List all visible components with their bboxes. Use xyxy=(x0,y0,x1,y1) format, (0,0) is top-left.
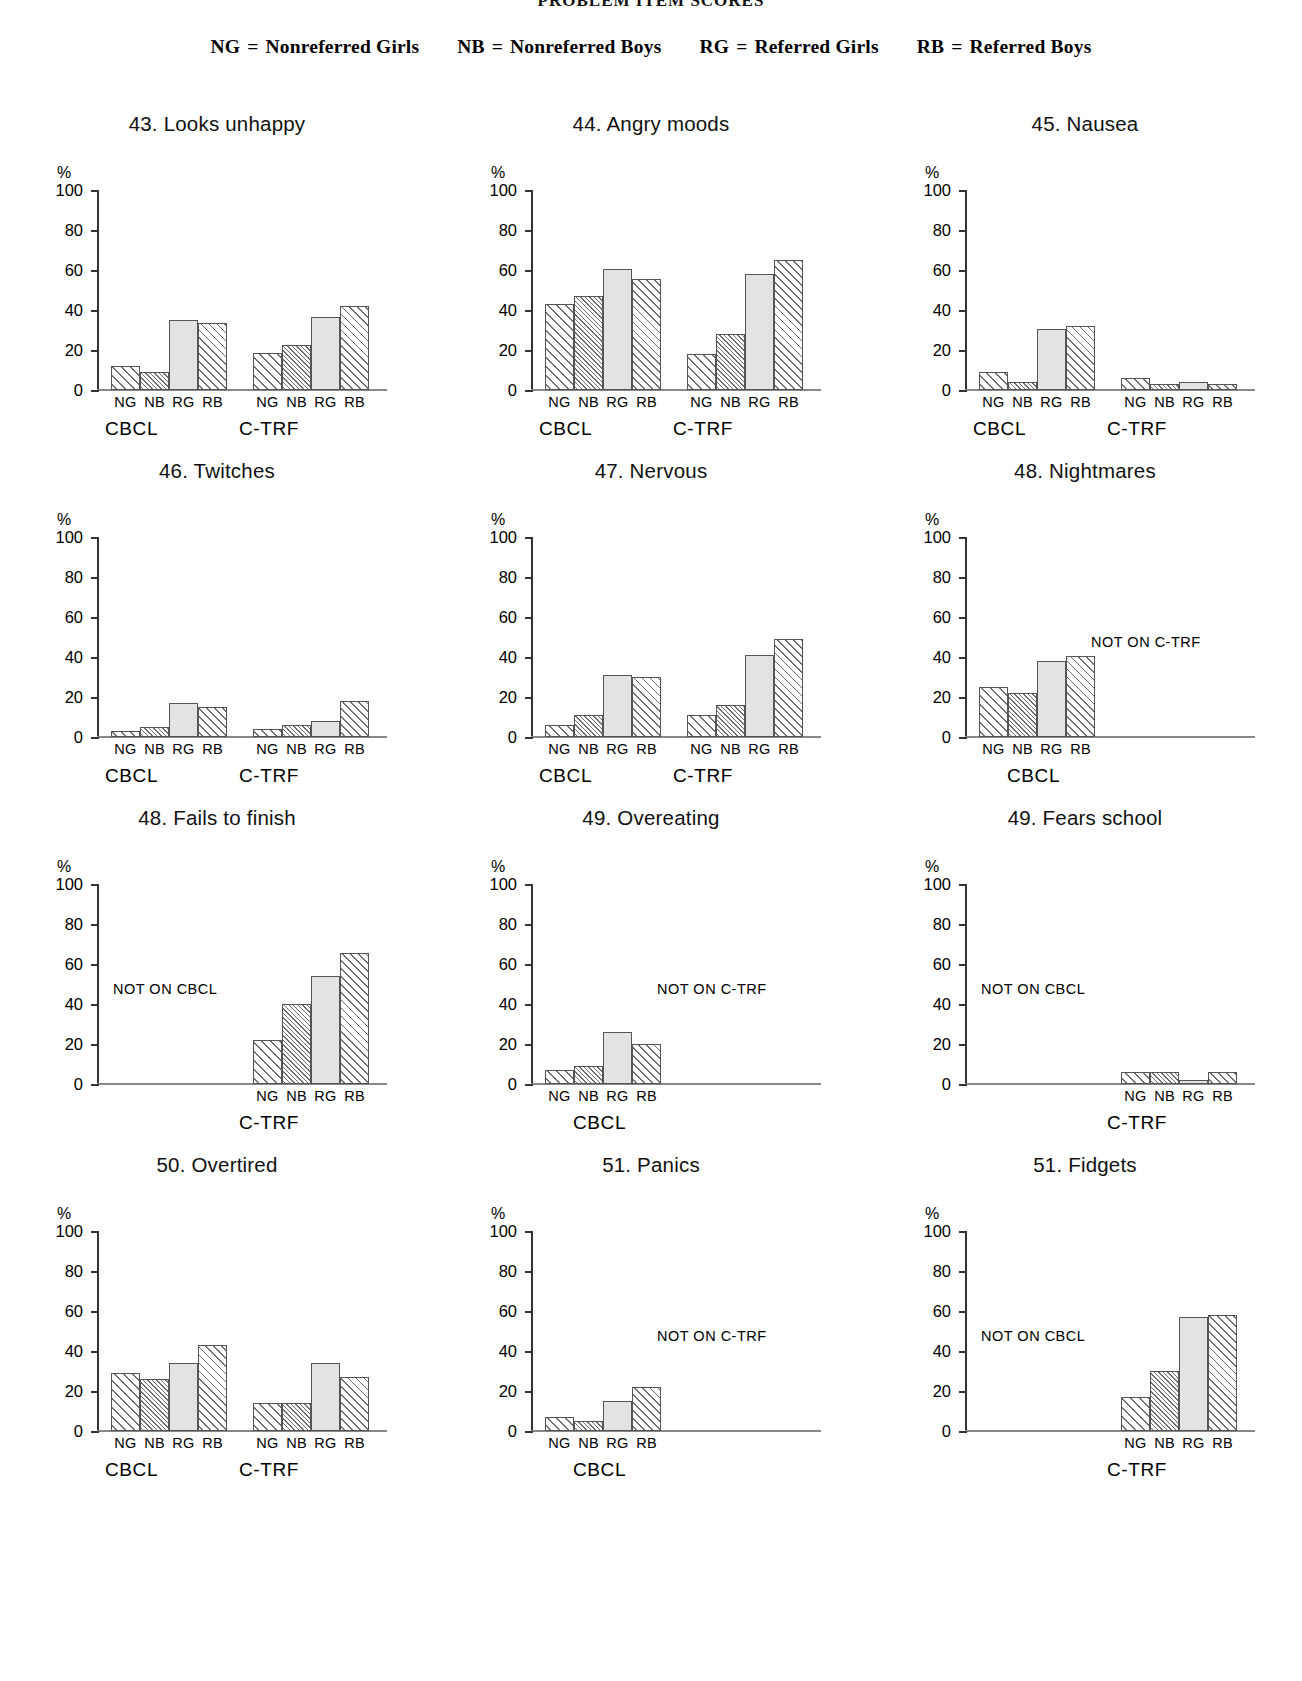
y-axis-unit: % xyxy=(925,1205,939,1223)
y-axis-tick-label: 20 xyxy=(471,689,517,706)
bar-rg xyxy=(603,675,632,737)
panel-label-ctrf: C-TRF xyxy=(1107,1459,1167,1481)
panel-label-ctrf: C-TRF xyxy=(239,765,299,787)
bar-nb xyxy=(1150,1072,1179,1084)
y-axis-tick-label: 20 xyxy=(37,689,83,706)
bar-nb xyxy=(140,372,169,390)
category-label-group: NGNBRGRB xyxy=(545,394,661,410)
y-axis-tick xyxy=(525,390,533,392)
y-axis-tick xyxy=(959,657,967,659)
y-axis-unit: % xyxy=(491,858,505,876)
category-label-ng: NG xyxy=(1121,1435,1150,1451)
category-label-group: NGNBRGRB xyxy=(253,741,369,757)
x-axis-category-labels: NGNBRGRB xyxy=(99,1088,387,1108)
y-axis-tick-label: 0 xyxy=(37,1423,83,1440)
chart-title: 46. Twitches xyxy=(0,451,434,489)
bar-group-c-trf xyxy=(253,884,369,1084)
x-axis-category-labels: NGNBRGRBNGNBRGRB xyxy=(99,394,387,414)
y-axis-tick-label: 60 xyxy=(37,1303,83,1320)
chart-panel: 43. Looks unhappy%100806040200NGNBRGRBNG… xyxy=(0,104,434,451)
category-label-rb: RB xyxy=(198,394,227,410)
category-label-rg: RG xyxy=(603,1435,632,1451)
chart-panel: 49. Overeating%100806040200NGNBRGRBCBCLN… xyxy=(434,798,868,1145)
y-axis-tick xyxy=(91,1311,99,1313)
y-axis-tick xyxy=(959,577,967,579)
bar-nb xyxy=(716,334,745,390)
category-label-rb: RB xyxy=(1208,394,1237,410)
category-label-rb: RB xyxy=(632,741,661,757)
y-axis-tick-label: 60 xyxy=(471,956,517,973)
chart-panel: 47. Nervous%100806040200NGNBRGRBNGNBRGRB… xyxy=(434,451,868,798)
category-label-rb: RB xyxy=(632,1435,661,1451)
y-axis-unit: % xyxy=(57,1205,71,1223)
legend-item-rg: RG=Referred Girls xyxy=(700,36,879,58)
bar-ng xyxy=(253,1040,282,1084)
y-axis-tick xyxy=(91,737,99,739)
y-axis-tick-label: 60 xyxy=(905,956,951,973)
y-axis-tick-label: 0 xyxy=(905,729,951,746)
panel-labels: C-TRF xyxy=(967,1459,1267,1485)
y-axis-tick xyxy=(525,190,533,192)
y-axis-tick xyxy=(91,190,99,192)
bar-nb xyxy=(1150,1371,1179,1431)
y-axis-tick-label: 80 xyxy=(37,916,83,933)
category-label-rb: RB xyxy=(198,1435,227,1451)
y-axis-tick xyxy=(959,884,967,886)
category-label-rg: RG xyxy=(603,741,632,757)
bar-rg xyxy=(1179,1080,1208,1084)
y-axis-tick xyxy=(525,1004,533,1006)
category-label-nb: NB xyxy=(1150,1435,1179,1451)
category-label-group: NGNBRGRB xyxy=(545,1435,661,1451)
bar-group-c-trf xyxy=(253,190,369,390)
y-axis-tick xyxy=(91,884,99,886)
chart-row: 43. Looks unhappy%100806040200NGNBRGRBNG… xyxy=(0,104,1302,451)
bar-rg xyxy=(169,320,198,390)
panel-label-ctrf: C-TRF xyxy=(1107,1112,1167,1134)
y-axis-tick-label: 40 xyxy=(37,1343,83,1360)
plot-area: %100806040200NGNBRGRBC-TRFNOT ON CBCL xyxy=(895,1183,1275,1483)
panel-label-cbcl: CBCL xyxy=(105,1459,158,1481)
y-axis-tick-label: 100 xyxy=(471,529,517,546)
chart-title: 51. Panics xyxy=(434,1145,868,1183)
y-axis-tick xyxy=(525,230,533,232)
y-axis-tick xyxy=(91,1044,99,1046)
y-axis-tick xyxy=(525,270,533,272)
y-axis-tick xyxy=(525,657,533,659)
y-axis-tick-label: 100 xyxy=(37,529,83,546)
category-label-ng: NG xyxy=(545,394,574,410)
y-axis-tick xyxy=(959,1084,967,1086)
bar-rb xyxy=(1208,384,1237,390)
y-axis-tick-label: 40 xyxy=(905,1343,951,1360)
y-axis-tick-label: 100 xyxy=(471,182,517,199)
y-axis-tick-label: 40 xyxy=(905,302,951,319)
y-axis-tick xyxy=(525,924,533,926)
y-axis-tick xyxy=(959,1044,967,1046)
y-axis-tick-label: 60 xyxy=(37,956,83,973)
category-label-ng: NG xyxy=(1121,1088,1150,1104)
panel-label-cbcl: CBCL xyxy=(573,1112,626,1134)
panel-labels: C-TRF xyxy=(99,1112,399,1138)
panel-labels: CBCLC-TRF xyxy=(99,418,399,444)
y-axis-tick-label: 100 xyxy=(37,876,83,893)
y-axis-tick xyxy=(959,964,967,966)
y-axis-tick-label: 40 xyxy=(37,302,83,319)
y-axis-tick-label: 60 xyxy=(905,1303,951,1320)
y-axis-tick-label: 60 xyxy=(471,262,517,279)
y-axis-tick-label: 60 xyxy=(37,609,83,626)
chart-grid: 43. Looks unhappy%100806040200NGNBRGRBNG… xyxy=(0,104,1302,1492)
chart-panel: 51. Panics%100806040200NGNBRGRBCBCLNOT O… xyxy=(434,1145,868,1492)
bar-nb xyxy=(140,727,169,737)
category-label-nb: NB xyxy=(716,394,745,410)
category-label-ng: NG xyxy=(253,741,282,757)
category-label-rg: RG xyxy=(1179,394,1208,410)
bar-nb xyxy=(1008,693,1037,737)
y-axis-tick xyxy=(959,1231,967,1233)
bar-ng xyxy=(253,1403,282,1431)
x-axis-category-labels: NGNBRGRB xyxy=(967,1088,1255,1108)
y-axis-tick xyxy=(959,1391,967,1393)
category-label-rg: RG xyxy=(1037,741,1066,757)
y-axis-tick xyxy=(525,617,533,619)
y-axis-tick-label: 20 xyxy=(37,1383,83,1400)
y-axis-tick xyxy=(959,190,967,192)
chart-title: 49. Fears school xyxy=(868,798,1302,836)
